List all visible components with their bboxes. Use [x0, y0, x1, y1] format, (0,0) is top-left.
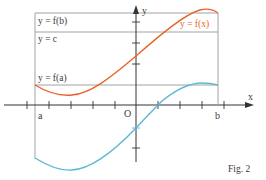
- y-axis-arrow-icon: [133, 5, 139, 14]
- figure-canvas: y = f(b) y = c y = f(a) y = f(x) y x O a…: [0, 0, 266, 180]
- x-axis-arrow-icon: [245, 102, 254, 108]
- curve-g: [35, 83, 218, 170]
- x-axis-label: x: [248, 91, 253, 102]
- b-label: b: [215, 110, 220, 121]
- label-c: y = c: [38, 34, 57, 44]
- y-axis-label: y: [142, 5, 147, 16]
- origin-label: O: [124, 108, 131, 119]
- a-label: a: [38, 110, 43, 121]
- label-f-a: y = f(a): [38, 73, 67, 84]
- figure-caption: Fig. 2: [228, 164, 250, 174]
- label-f-x: y = f(x): [180, 19, 209, 30]
- label-f-b: y = f(b): [38, 16, 67, 27]
